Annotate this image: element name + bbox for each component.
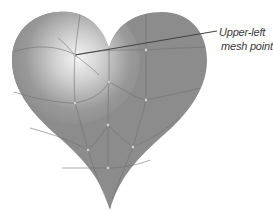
heart-shape xyxy=(4,0,207,210)
callout-label-line1: Upper-left xyxy=(219,25,273,39)
callout-label: Upper-left mesh point xyxy=(219,25,273,53)
diagram-canvas: Upper-left mesh point xyxy=(0,0,273,224)
callout-label-line2: mesh point xyxy=(221,39,273,53)
